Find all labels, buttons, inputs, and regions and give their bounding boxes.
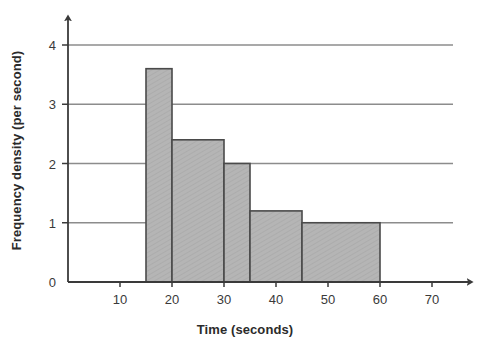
y-axis-tick-label: 2: [49, 157, 56, 172]
histogram-bar: [250, 211, 302, 282]
x-axis-tick-label: 30: [217, 292, 231, 307]
y-axis-tick-label: 4: [49, 38, 56, 53]
histogram-bar: [302, 223, 380, 282]
x-axis-tick-label: 10: [113, 292, 127, 307]
y-axis-title: Frequency density (per second): [10, 50, 25, 250]
y-axis-tick-label: 1: [49, 216, 56, 231]
histogram-bar: [172, 140, 224, 282]
x-axis-title: Time (seconds): [0, 322, 490, 337]
y-axis-title-container: Frequency density (per second): [0, 0, 34, 300]
histogram-bar: [146, 69, 172, 282]
x-axis-tick-label: 70: [425, 292, 439, 307]
y-axis-tick-label: 3: [49, 97, 56, 112]
x-axis-tick-label: 40: [269, 292, 283, 307]
gridlines-group: [68, 45, 453, 223]
x-axis-tick-label: 60: [373, 292, 387, 307]
y-tick-group: 01234: [49, 38, 68, 290]
histogram-bar: [224, 164, 250, 283]
y-axis-tick-label: 0: [49, 275, 56, 290]
x-tick-group: 10203040506070: [113, 282, 439, 307]
chart-plot-area: 10203040506070 01234: [0, 0, 490, 350]
x-axis-tick-label: 20: [165, 292, 179, 307]
bars-group: [146, 69, 380, 282]
x-axis-tick-label: 50: [321, 292, 335, 307]
histogram-figure: 10203040506070 01234 Frequency density (…: [0, 0, 490, 350]
